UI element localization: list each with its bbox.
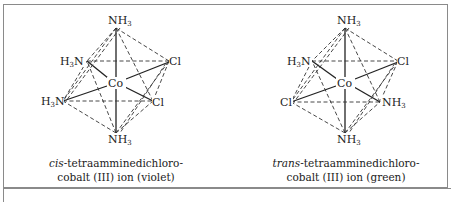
cis-center-co-label: Co — [108, 77, 123, 90]
cis-lower-right-cl-label: Cl — [152, 96, 164, 109]
cis-caption-line1: cis-tetraamminedichloro- — [16, 156, 216, 170]
trans-prefix: trans — [273, 157, 301, 169]
trans-caption-line1: trans-tetraamminedichloro- — [246, 156, 446, 170]
cis-octahedron: NH3 H3N Cl Co H3N Cl NH3 — [40, 13, 182, 147]
trans-lower-left-cl-label: Cl — [280, 96, 292, 109]
cis-caption-line2: cobalt (III) ion (violet) — [16, 170, 216, 184]
cis-caption: cis-tetraamminedichloro- cobalt (III) io… — [16, 156, 216, 184]
trans-octahedron: NH3 H3N Cl Co Cl NH3 NH3 — [280, 13, 410, 147]
cis-upper-right-cl-label: Cl — [169, 55, 181, 68]
cis-prefix: cis — [49, 157, 64, 169]
trans-caption: trans-tetraamminedichloro- cobalt (III) … — [246, 156, 446, 184]
trans-upper-right-cl-label: Cl — [397, 55, 409, 68]
trans-center-co-label: Co — [337, 77, 352, 90]
trans-caption-line2: cobalt (III) ion (green) — [246, 170, 446, 184]
